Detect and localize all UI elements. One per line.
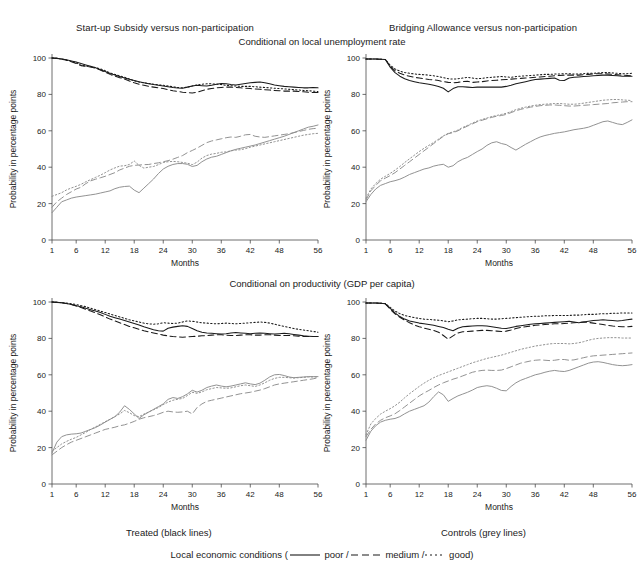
svg-text:100: 100: [33, 298, 47, 307]
svg-text:20: 20: [351, 200, 360, 209]
svg-text:100: 100: [347, 54, 361, 63]
svg-text:1: 1: [50, 246, 55, 255]
svg-text:36: 36: [217, 490, 226, 499]
series-line: [366, 303, 632, 331]
chart-panel-bottom-right: 020406080100161218243036424856MonthsProb…: [314, 290, 644, 522]
svg-text:Probability in percentage poin: Probability in percentage points: [322, 90, 332, 209]
svg-text:60: 60: [37, 127, 46, 136]
svg-text:0: 0: [42, 480, 47, 489]
svg-text:Months: Months: [171, 502, 199, 512]
svg-text:48: 48: [589, 490, 598, 499]
svg-text:20: 20: [37, 200, 46, 209]
svg-text:Probability in percentage poin: Probability in percentage points: [8, 90, 18, 209]
panel-title-left: Start-up Subsidy versus non-participatio…: [0, 22, 330, 33]
series-line: [52, 378, 318, 455]
legend-prefix: Local economic conditions (: [171, 549, 288, 560]
svg-text:18: 18: [444, 246, 453, 255]
svg-text:Months: Months: [485, 258, 513, 268]
plot-area-top-left: 020406080100161218243036424856MonthsProb…: [0, 46, 330, 274]
svg-text:1: 1: [50, 490, 55, 499]
svg-text:36: 36: [531, 490, 540, 499]
series-line: [366, 353, 632, 437]
series-line: [52, 58, 318, 91]
series-line: [366, 120, 632, 202]
svg-text:100: 100: [347, 298, 361, 307]
svg-text:80: 80: [351, 90, 360, 99]
series-line: [366, 59, 632, 92]
series-line: [366, 338, 632, 435]
series-line: [52, 377, 318, 451]
svg-text:60: 60: [351, 371, 360, 380]
svg-text:24: 24: [473, 246, 482, 255]
svg-text:60: 60: [351, 127, 360, 136]
svg-text:6: 6: [388, 246, 393, 255]
footer-controls-label: Controls (grey lines): [441, 527, 526, 538]
svg-text:48: 48: [275, 490, 284, 499]
svg-text:30: 30: [188, 490, 197, 499]
svg-text:6: 6: [74, 490, 79, 499]
footer-treated-label: Treated (black lines): [126, 527, 212, 538]
svg-text:42: 42: [560, 490, 569, 499]
svg-text:6: 6: [388, 490, 393, 499]
legend: Local economic conditions ( poor / mediu…: [0, 549, 644, 560]
svg-text:Months: Months: [485, 502, 513, 512]
series-line: [366, 102, 632, 200]
svg-text:Probability in percentage poin: Probability in percentage points: [8, 334, 18, 453]
svg-text:20: 20: [351, 444, 360, 453]
chart-panel-top-left: 020406080100161218243036424856MonthsProb…: [0, 46, 330, 278]
chart-panel-top-right: 020406080100161218243036424856MonthsProb…: [314, 46, 644, 278]
svg-text:6: 6: [74, 246, 79, 255]
svg-text:40: 40: [351, 407, 360, 416]
panel-title-right: Bridging Allowance versus non-participat…: [322, 22, 644, 33]
svg-text:80: 80: [37, 90, 46, 99]
svg-text:24: 24: [473, 490, 482, 499]
svg-text:80: 80: [37, 334, 46, 343]
svg-text:30: 30: [502, 490, 511, 499]
svg-text:12: 12: [101, 246, 110, 255]
svg-text:100: 100: [33, 54, 47, 63]
svg-text:42: 42: [560, 246, 569, 255]
svg-text:20: 20: [37, 444, 46, 453]
svg-text:18: 18: [444, 490, 453, 499]
svg-text:40: 40: [37, 407, 46, 416]
legend-poor-label: poor /: [324, 549, 348, 560]
series-line: [366, 362, 632, 441]
svg-text:36: 36: [217, 246, 226, 255]
svg-text:0: 0: [356, 480, 361, 489]
plot-area-top-right: 020406080100161218243036424856MonthsProb…: [314, 46, 644, 274]
svg-text:30: 30: [502, 246, 511, 255]
svg-text:18: 18: [130, 490, 139, 499]
series-line: [52, 374, 318, 453]
legend-medium-label: medium /: [385, 549, 424, 560]
svg-text:0: 0: [356, 236, 361, 245]
svg-text:12: 12: [415, 490, 424, 499]
svg-text:40: 40: [37, 163, 46, 172]
chart-panel-bottom-left: 020406080100161218243036424856MonthsProb…: [0, 290, 330, 522]
series-line: [52, 125, 318, 213]
svg-text:Months: Months: [171, 258, 199, 268]
svg-text:24: 24: [159, 490, 168, 499]
series-line: [366, 100, 632, 199]
svg-text:56: 56: [628, 490, 637, 499]
row2-subtitle: Conditional on productivity (GDP per cap…: [0, 278, 644, 289]
series-line: [52, 133, 318, 196]
svg-text:60: 60: [37, 371, 46, 380]
figure-container: Start-up Subsidy versus non-participatio…: [0, 0, 644, 573]
legend-dashed-line-icon: [349, 551, 383, 559]
series-line: [52, 302, 318, 332]
svg-text:48: 48: [589, 246, 598, 255]
legend-good-label: good): [449, 549, 473, 560]
svg-text:12: 12: [415, 246, 424, 255]
svg-text:1: 1: [364, 490, 369, 499]
svg-text:24: 24: [159, 246, 168, 255]
svg-text:42: 42: [246, 246, 255, 255]
svg-text:18: 18: [130, 246, 139, 255]
series-line: [52, 58, 318, 88]
svg-text:48: 48: [275, 246, 284, 255]
svg-text:40: 40: [351, 163, 360, 172]
series-line: [52, 302, 318, 337]
legend-solid-line-icon: [288, 551, 322, 559]
svg-text:Probability in percentage poin: Probability in percentage points: [322, 334, 332, 453]
svg-text:30: 30: [188, 246, 197, 255]
svg-text:1: 1: [364, 246, 369, 255]
